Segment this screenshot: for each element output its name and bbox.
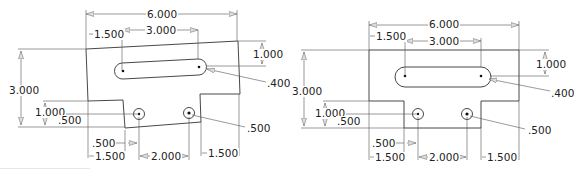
left-slot [114,59,206,79]
left-dim-left-notch-width: 1.500 [94,151,126,162]
left-dim-right-notch-width: 1.500 [207,148,239,159]
left-drawing [86,41,240,128]
left-dim-hole-height: .500 [57,115,82,126]
right-part-outline [369,50,519,128]
left-dim-overall-height: 3.000 [8,85,40,96]
right-dim-slot-radius: .400 [550,88,575,99]
right-slot [395,67,491,87]
left-dim-slot-from-top: 1.000 [252,49,284,60]
right-dim-overall-height: 3.000 [291,86,323,97]
right-dim-slot-from-top: 1.000 [535,59,567,70]
left-dimension-lines [18,10,266,160]
left-dim-hole-diameter: .500 [246,123,271,134]
left-dim-slot-radius: .400 [266,78,291,89]
left-dim-hole-offset: .500 [91,138,116,149]
right-dim-hole-diameter: .500 [527,125,552,136]
bottom-divider [0,168,90,169]
right-dim-hole-offset: .500 [371,138,396,149]
left-part-outline [86,41,240,128]
left-dim-slot-offset: 1.500 [93,29,125,40]
left-dim-overall-width: 6.000 [146,9,178,20]
right-dim-hole-spacing: 2.000 [428,152,460,163]
right-dimension-lines [301,21,550,160]
right-dim-slot-length: 3.000 [428,36,460,47]
right-dim-hole-height: .500 [336,116,361,127]
left-dim-slot-length: 3.000 [145,25,177,36]
right-dim-overall-width: 6.000 [428,19,460,30]
left-dim-hole-spacing: 2.000 [150,151,182,162]
right-dim-slot-offset: 1.500 [375,31,407,42]
right-dim-left-notch-width: 1.500 [374,152,406,163]
right-dim-right-notch-width: 1.500 [486,152,518,163]
right-drawing [369,50,519,128]
